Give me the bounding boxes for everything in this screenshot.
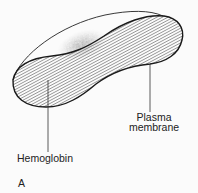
rbc-diagram: Plasma membrane Hemoglobin A (0, 0, 198, 193)
cell-cross-section (13, 16, 183, 107)
plasma-membrane-label: Plasma membrane (126, 112, 182, 132)
rbc-illustration (0, 0, 198, 193)
plasma-label-line2: membrane (126, 122, 182, 132)
hemoglobin-label: Hemoglobin (17, 153, 73, 163)
panel-letter: A (18, 178, 25, 188)
